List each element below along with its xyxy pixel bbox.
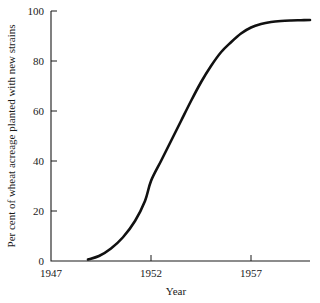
y-tick-label-80: 80 — [33, 55, 45, 67]
y-tick-label-100: 100 — [28, 5, 45, 17]
chart-axes-lines — [51, 11, 310, 261]
x-tick-label-1957: 1957 — [240, 267, 263, 279]
chart-figure: Per cent of wheat acreage planted with n… — [0, 0, 320, 303]
x-tick-label-1947: 1947 — [40, 267, 63, 279]
chart-plot-area: Per cent of wheat acreage planted with n… — [0, 0, 320, 303]
y-tick-label-20: 20 — [33, 205, 45, 217]
y-tick-label-40: 40 — [33, 155, 45, 167]
x-tick-label-1952: 1952 — [140, 267, 162, 279]
y-tick-label-0: 0 — [39, 255, 45, 267]
y-axis-title: Per cent of wheat acreage planted with n… — [5, 25, 17, 248]
x-axis-title: Year — [166, 285, 187, 297]
data-curve-new-strains — [88, 20, 310, 260]
y-tick-label-60: 60 — [33, 105, 45, 117]
